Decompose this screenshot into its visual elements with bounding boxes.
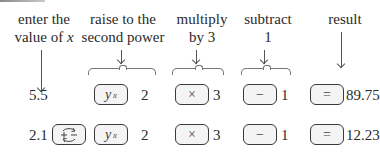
change-sign-key[interactable] (52, 124, 86, 145)
subtract-key[interactable]: − (243, 124, 277, 145)
label-result: result (310, 10, 380, 28)
equals-key[interactable]: = (310, 84, 344, 105)
arrow-subtract (264, 50, 265, 64)
change-sign-icon (56, 126, 82, 144)
row1-subtrahend: 1 (281, 86, 289, 104)
label-subtract: subtract 1 (238, 10, 298, 46)
power-key[interactable]: yx (94, 124, 128, 145)
arrow-raise (121, 50, 122, 64)
row1-result: 89.75 (346, 86, 380, 104)
multiply-key[interactable]: × (175, 124, 209, 145)
brace-subtract (241, 68, 291, 75)
row2-input: 2.1 (29, 126, 48, 144)
arrow-multiply (196, 50, 197, 64)
brace-multiply (172, 68, 224, 75)
row2-result: 12.23 (346, 126, 380, 144)
label-multiply: multiply by 3 (170, 10, 234, 46)
multiply-key[interactable]: × (175, 84, 209, 105)
subtract-key[interactable]: − (243, 84, 277, 105)
row1-input: 5.5 (29, 86, 48, 104)
label-raise-power: raise to the second power (78, 10, 168, 46)
row1-multiplier: 3 (213, 86, 221, 104)
top-rule (0, 0, 45, 2)
arrow-result (341, 32, 342, 68)
equals-key[interactable]: = (310, 124, 344, 145)
brace-raise (88, 68, 156, 75)
row2-subtrahend: 1 (281, 126, 289, 144)
label-enter-value: enter the value of x (8, 10, 80, 46)
row2-multiplier: 3 (213, 126, 221, 144)
row1-exponent: 2 (141, 86, 149, 104)
row2-exponent: 2 (141, 126, 149, 144)
power-key[interactable]: yx (94, 84, 128, 105)
